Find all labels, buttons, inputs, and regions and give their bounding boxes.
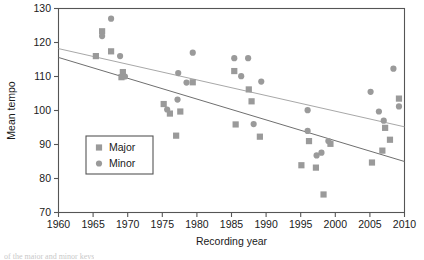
data-point-minor — [245, 55, 251, 61]
data-point-major — [320, 191, 326, 197]
data-point-minor — [396, 103, 402, 109]
x-axis-title: Recording year — [196, 235, 268, 247]
data-point-minor — [367, 89, 373, 95]
data-point-minor — [122, 73, 128, 79]
legend-marker-major — [96, 144, 102, 150]
data-point-minor — [190, 50, 196, 56]
data-point-minor — [376, 108, 382, 114]
x-tick-label-1965: 1965 — [81, 218, 105, 230]
data-point-major — [382, 125, 388, 131]
data-point-minor — [164, 106, 170, 112]
chart-legend: MajorMinor — [86, 136, 153, 174]
data-point-major — [369, 159, 375, 165]
data-point-major — [257, 134, 263, 140]
data-point-minor — [258, 79, 264, 85]
x-tick-label-1990: 1990 — [254, 218, 278, 230]
data-point-major — [246, 86, 252, 92]
y-tick-label-100: 100 — [33, 104, 51, 116]
data-point-major — [231, 68, 237, 74]
data-point-major — [306, 138, 312, 144]
chart-figure: 7080901001101201301960196519701975198019… — [0, 0, 424, 260]
x-tick-label-1960: 1960 — [47, 218, 71, 230]
data-point-minor — [238, 73, 244, 79]
data-point-major — [379, 148, 385, 154]
x-tick-label-1995: 1995 — [289, 218, 313, 230]
legend-label-minor: Minor — [109, 157, 136, 169]
x-tick-label-2005: 2005 — [358, 218, 382, 230]
y-tick-label-70: 70 — [39, 206, 51, 218]
caption-sliver: of the major and minor keys — [4, 252, 94, 259]
data-point-minor — [381, 118, 387, 124]
scatter-plot-svg: 7080901001101201301960196519701975198019… — [0, 0, 424, 260]
x-tick-label-1975: 1975 — [151, 218, 175, 230]
data-point-major — [387, 137, 393, 143]
x-tick-label-2000: 2000 — [324, 218, 348, 230]
data-point-major — [93, 53, 99, 59]
data-point-minor — [99, 33, 105, 39]
y-tick-label-80: 80 — [39, 172, 51, 184]
x-tick-label-2010: 2010 — [393, 218, 417, 230]
y-axis-title: Mean tempo — [5, 81, 17, 140]
legend-marker-minor — [96, 160, 102, 166]
data-point-major — [173, 133, 179, 139]
legend-label-major: Major — [109, 141, 136, 153]
data-point-minor — [318, 150, 324, 156]
data-point-major — [177, 108, 183, 114]
y-tick-label-130: 130 — [33, 2, 51, 14]
data-point-minor — [305, 107, 311, 113]
y-tick-label-120: 120 — [33, 36, 51, 48]
data-point-minor — [390, 66, 396, 72]
y-tick-label-90: 90 — [39, 138, 51, 150]
y-tick-label-110: 110 — [34, 70, 51, 82]
data-point-major — [233, 121, 239, 127]
data-point-minor — [325, 138, 331, 144]
data-point-minor — [108, 16, 114, 22]
data-point-major — [313, 165, 319, 171]
data-point-minor — [305, 128, 311, 134]
x-tick-label-1980: 1980 — [185, 218, 209, 230]
data-point-minor — [175, 70, 181, 76]
data-point-minor — [251, 121, 257, 127]
data-point-major — [190, 79, 196, 85]
data-point-minor — [231, 55, 237, 61]
trend-line-major — [59, 49, 405, 127]
data-point-major — [298, 162, 304, 168]
data-point-major — [108, 48, 114, 54]
x-tick-label-1985: 1985 — [220, 218, 244, 230]
data-point-minor — [174, 97, 180, 103]
data-point-major — [161, 101, 167, 107]
data-point-minor — [117, 53, 123, 59]
data-point-major — [396, 96, 402, 102]
plot-frame — [59, 9, 405, 213]
data-point-major — [248, 98, 254, 104]
data-point-minor — [183, 80, 189, 86]
x-tick-label-1970: 1970 — [116, 218, 140, 230]
